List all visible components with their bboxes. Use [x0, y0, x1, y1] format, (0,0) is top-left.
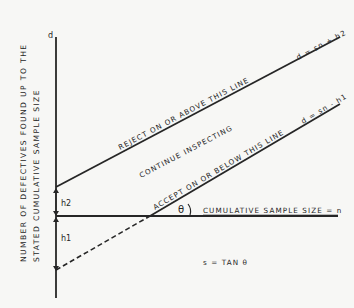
- y-axis-label-line2: STATED CUMULATIVE SAMPLE SIZE: [32, 89, 41, 262]
- theta-arc: [188, 204, 191, 215]
- accept-line-extension: [56, 216, 150, 270]
- accept-line-equation: d = sn - h1: [299, 92, 348, 126]
- theta-symbol: θ: [178, 204, 184, 215]
- h2-dimension: [53, 188, 59, 216]
- slope-formula: s = TAN θ: [203, 258, 248, 267]
- accept-line-label: ACCEPT ON OR BELOW THIS LINE: [151, 128, 285, 212]
- y-axis-symbol: d: [48, 31, 53, 40]
- h2-label: h2: [61, 199, 71, 208]
- y-axis-label-line1: NUMBER OF DEFECTIVES FOUND UP TO THE: [19, 44, 28, 262]
- x-axis-label: CUMULATIVE SAMPLE SIZE = n: [203, 206, 342, 215]
- sequential-sampling-diagram: d h2 h1 NUMBER OF DEFECTIVES FOUND UP TO…: [0, 0, 354, 308]
- reject-line-label: REJECT ON OR ABOVE THIS LINE: [117, 75, 251, 151]
- h1-label: h1: [61, 234, 71, 243]
- reject-line-equation: d = sn + h2: [295, 28, 348, 62]
